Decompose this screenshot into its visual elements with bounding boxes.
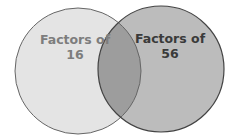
- label-left-line1: Factors of: [30, 32, 120, 47]
- label-right-line2: 56: [125, 46, 215, 61]
- label-factors-of-16: Factors of 16: [30, 32, 120, 62]
- venn-diagram: [0, 0, 229, 140]
- label-left-line2: 16: [30, 47, 120, 62]
- label-factors-of-56: Factors of 56: [125, 31, 215, 61]
- label-right-line1: Factors of: [125, 31, 215, 46]
